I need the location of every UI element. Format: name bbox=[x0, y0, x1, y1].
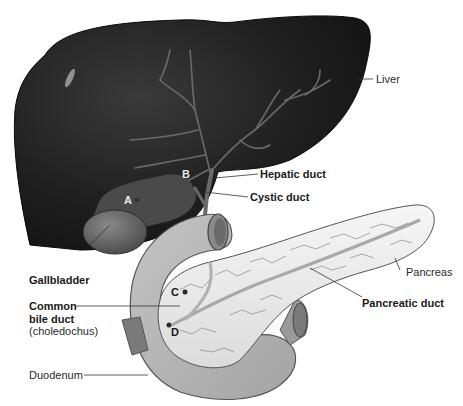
marker-d: D bbox=[171, 326, 179, 338]
label-hepatic-duct: Hepatic duct bbox=[260, 168, 326, 181]
label-pancreatic-duct: Pancreatic duct bbox=[362, 297, 444, 310]
marker-b: B bbox=[182, 168, 190, 180]
label-common-bile-duct-line1: Common bbox=[29, 300, 77, 313]
marker-c: C bbox=[171, 286, 179, 298]
marker-a: A bbox=[124, 194, 132, 206]
marker-c-dot bbox=[183, 290, 188, 295]
label-gallbladder: Gallbladder bbox=[29, 274, 90, 287]
label-liver: Liver bbox=[376, 73, 400, 86]
liver bbox=[14, 16, 370, 250]
label-cystic-duct: Cystic duct bbox=[250, 191, 309, 204]
marker-a-dot bbox=[135, 198, 140, 203]
label-choledochus: (choledochus) bbox=[29, 325, 98, 338]
label-pancreas: Pancreas bbox=[406, 266, 452, 279]
label-duodenum: Duodenum bbox=[29, 369, 83, 382]
anatomy-diagram: Liver Hepatic duct Cystic duct Gallbladd… bbox=[0, 0, 463, 406]
anatomy-illustration bbox=[0, 0, 463, 406]
